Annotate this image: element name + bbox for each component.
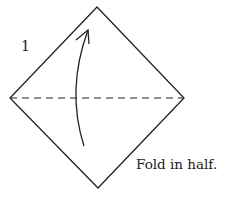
step-number: 1 bbox=[21, 38, 30, 54]
curved-arrow-icon bbox=[76, 30, 88, 146]
origami-diagram: 1 Fold in half. bbox=[0, 0, 229, 205]
fold-instruction-caption: Fold in half. bbox=[136, 156, 217, 172]
fold-diagram-svg bbox=[0, 0, 229, 205]
